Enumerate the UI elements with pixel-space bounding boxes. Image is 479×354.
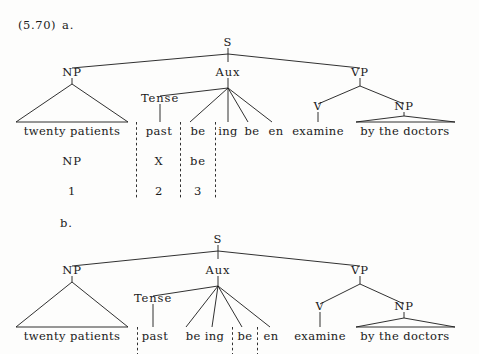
example-number: (5.70) — [18, 20, 56, 32]
tree-a-analysis-col-2: X — [155, 156, 164, 168]
tree-a-terminal-subject: twenty patients — [24, 126, 121, 138]
tree-b-terminal-being: be ing — [186, 331, 225, 343]
tree-a-node-v: V — [313, 101, 322, 113]
tree-a-terminal-be-1: be — [191, 126, 206, 138]
tree-a-terminal-verb: examine — [292, 126, 344, 138]
tree-a-node-tense: Tense — [141, 93, 179, 105]
tree-b-terminal-verb: examine — [294, 331, 346, 343]
tree-a-node-s: S — [224, 37, 233, 49]
figure-page: (5.70) a. S NP Aux VP Tense V NP twenty … — [0, 0, 479, 354]
tree-b-vp-branches — [320, 276, 404, 304]
tree-a-np-subject-triangle — [16, 78, 128, 122]
tree-a-index-col-1: 1 — [68, 186, 76, 198]
tree-b-node-tense: Tense — [134, 293, 172, 305]
subfigure-a-label: a. — [62, 20, 74, 32]
tree-a-terminal-past: past — [146, 126, 172, 138]
tree-a-analysis-col-1: NP — [62, 156, 81, 168]
tree-a-vp-branches — [318, 78, 404, 104]
tree-a-index-col-3: 3 — [194, 186, 202, 198]
tree-b-node-v: V — [315, 301, 324, 313]
tree-b-node-s: S — [214, 234, 223, 246]
tree-a-terminal-agent: by the doctors — [360, 126, 449, 138]
tree-b-terminal-subject: twenty patients — [24, 331, 121, 343]
tree-a-np-agent-triangle — [356, 112, 455, 122]
tree-b-terminal-en: en — [263, 331, 278, 343]
tree-a-node-vp: VP — [351, 67, 369, 79]
tree-a-node-np: NP — [62, 67, 82, 79]
tree-a-node-aux: Aux — [216, 67, 241, 79]
tree-a-index-col-2: 2 — [155, 186, 163, 198]
subfigure-b-label: b. — [60, 218, 73, 230]
tree-a-analysis-col-3: be — [190, 156, 206, 168]
tree-a-node-np-agent: NP — [394, 101, 414, 113]
tree-b-node-np: NP — [62, 265, 82, 277]
tree-b-np-subject-triangle — [16, 276, 128, 327]
tree-b-np-agent-triangle — [356, 312, 455, 327]
tree-b-node-np-agent: NP — [394, 301, 414, 313]
tree-b-terminal-be-2: be — [238, 331, 253, 343]
tree-b-node-vp: VP — [351, 265, 369, 277]
tree-a-terminal-en: en — [268, 126, 283, 138]
tree-b-terminal-past: past — [142, 331, 168, 343]
tree-b-terminal-agent: by the doctors — [360, 331, 449, 343]
tree-b-node-aux: Aux — [206, 265, 231, 277]
tree-a-terminal-ing: ing — [218, 126, 238, 138]
tree-a-terminal-be-2: be — [245, 126, 260, 138]
